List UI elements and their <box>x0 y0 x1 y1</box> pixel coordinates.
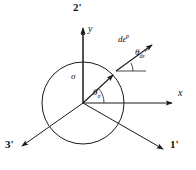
axis-1-prime-label: 1' <box>170 139 179 150</box>
figure-canvas <box>0 0 196 170</box>
axis-3-prime-label: 3' <box>5 139 14 150</box>
theta-dep-subscript: dε <box>139 53 144 59</box>
plastic-strain-increment-label: dεp <box>118 33 129 44</box>
theta-dep-sub-superscript: p <box>145 47 148 52</box>
theta-sigma-label: θσ <box>93 88 100 99</box>
axis-2-prime-label: 2' <box>73 2 82 13</box>
stress-vector-label: σ <box>71 72 75 81</box>
axis-3-prime-line <box>22 103 83 146</box>
theta-sigma-subscript: σ <box>97 93 100 99</box>
deviatoric-plane-figure: 2' 1' 3' x y σ dεp θσ θdεp <box>0 0 196 170</box>
axis-y-label: y <box>88 24 92 34</box>
d-epsilon-superscript: p <box>126 33 129 39</box>
theta-d-epsilon-p-label: θdεp <box>135 47 147 59</box>
theta-d-epsilon-p-arc <box>131 63 133 71</box>
axis-x-label: x <box>178 88 182 98</box>
d-epsilon-base: dε <box>118 34 126 44</box>
